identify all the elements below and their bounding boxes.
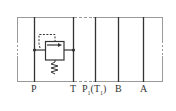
port-label-t1-main: (T	[91, 83, 100, 94]
relief-valve-symbol	[35, 35, 74, 75]
port-label-p1-t1: P1(T1)	[82, 83, 106, 99]
junction-dot-p	[33, 48, 36, 51]
port-label-b: B	[115, 83, 122, 95]
valve-body	[46, 42, 65, 61]
port-label-p: P	[31, 83, 37, 95]
port-label-a: A	[140, 83, 147, 95]
port-label-t: T	[70, 83, 76, 95]
port-label-t1-close: )	[103, 83, 106, 94]
spring-icon	[51, 60, 58, 74]
junction-dot-t	[72, 48, 75, 51]
